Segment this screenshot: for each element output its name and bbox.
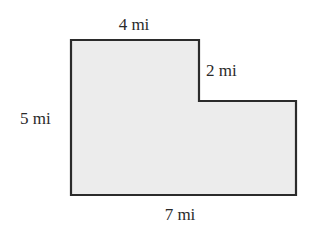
- top-width-label: 4 mi: [119, 15, 150, 34]
- l-shape-diagram: 4 mi 2 mi 5 mi 7 mi: [0, 0, 316, 242]
- notch-height-label: 2 mi: [206, 61, 237, 80]
- bottom-width-label: 7 mi: [165, 205, 196, 224]
- l-shape-polygon: [71, 40, 296, 195]
- left-height-label: 5 mi: [20, 109, 51, 128]
